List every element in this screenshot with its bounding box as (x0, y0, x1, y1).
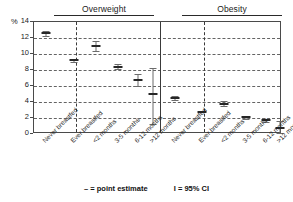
y-tick-label-0: 0 (5, 128, 29, 137)
y-tick-label-12: 12 (5, 32, 29, 41)
figure-root: Overweight Obesity % 14121086420 Never b… (0, 0, 293, 202)
legend-confidence-interval: I = 95% CI (174, 184, 209, 193)
confidence-interval-cap-lower (135, 86, 142, 87)
confidence-interval-cap-lower (172, 100, 179, 101)
confidence-interval-cap-lower (115, 69, 122, 70)
point-estimate-marker (242, 116, 251, 118)
panel-title-overweight-text: Overweight (54, 4, 154, 14)
y-tick-label-14: 14 (5, 16, 29, 25)
y-tick-label-4: 4 (5, 96, 29, 105)
panel-title-overweight: Overweight (54, 4, 154, 16)
data-point (40, 22, 52, 134)
legend-point-estimate: – = point estimate (84, 184, 148, 193)
point-estimate-marker (171, 97, 180, 99)
panel-title-obesity-rule (182, 15, 282, 16)
confidence-interval-cap-lower (221, 106, 228, 107)
y-tick-label-8: 8 (5, 64, 29, 73)
confidence-interval-cap-upper (115, 64, 122, 65)
legend: – = point estimate I = 95% CI (0, 184, 293, 193)
panel-title-overweight-rule (54, 15, 154, 16)
panel-title-obesity-text: Obesity (182, 4, 282, 14)
confidence-interval-cap-upper (93, 41, 100, 42)
y-tick-mark-0 (30, 133, 33, 134)
confidence-interval-cap-lower (43, 36, 50, 37)
point-estimate-marker (92, 45, 101, 47)
confidence-interval-line (153, 68, 154, 124)
point-estimate-marker (42, 32, 51, 34)
point-estimate-marker (134, 79, 143, 81)
y-tick-label-2: 2 (5, 112, 29, 121)
confidence-interval-cap-lower (71, 62, 78, 63)
point-estimate-marker (114, 66, 123, 68)
y-tick-label-10: 10 (5, 48, 29, 57)
point-estimate-marker (70, 59, 79, 61)
y-tick-label-6: 6 (5, 80, 29, 89)
confidence-interval-cap-upper (150, 68, 157, 69)
point-estimate-marker (220, 103, 229, 105)
confidence-interval-cap-lower (93, 51, 100, 52)
point-estimate-marker (149, 93, 158, 95)
confidence-interval-cap-upper (135, 74, 142, 75)
panel-title-obesity: Obesity (182, 4, 282, 16)
